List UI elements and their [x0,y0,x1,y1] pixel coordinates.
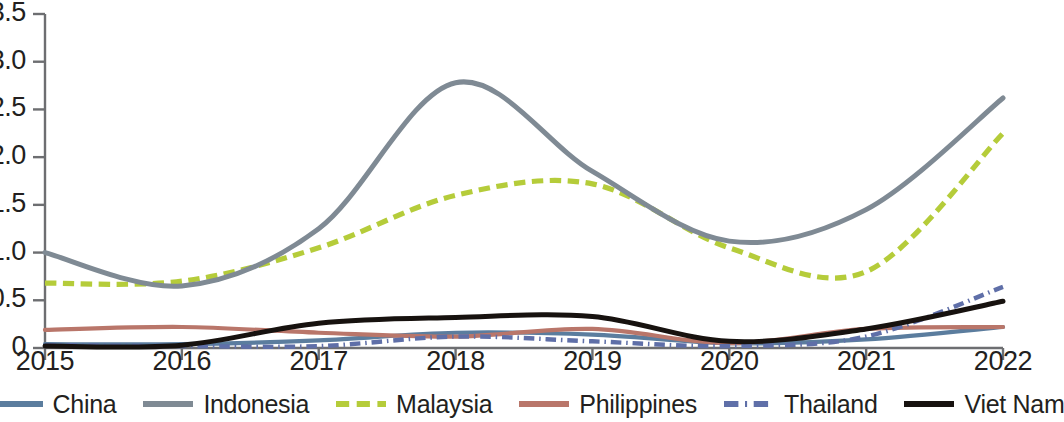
legend-item-thailand[interactable]: Thailand [723,390,878,419]
legend-label: Viet Nam [964,390,1064,419]
x-tick-label: 2019 [537,346,647,377]
chart-legend: ChinaIndonesiaMalaysiaPhilippinesThailan… [0,386,1056,422]
x-tick-label: 2022 [948,346,1058,377]
plot-area [0,0,1056,380]
y-tick-label: 3.0 [0,45,26,76]
y-tick-label: 2.5 [0,92,26,123]
legend-swatch-philippines-icon [518,396,570,412]
x-tick-label: 2015 [0,346,100,377]
data-series-group [45,82,1003,347]
legend-item-malaysia[interactable]: Malaysia [335,390,492,419]
y-tick-marks [33,14,45,348]
y-tick-label: 1.5 [0,188,26,219]
legend-label: Philippines [579,390,697,419]
legend-label: Indonesia [203,390,309,419]
legend-swatch-indonesia-icon [142,396,194,412]
legend-label: Malaysia [396,390,492,419]
legend-item-philippines[interactable]: Philippines [518,390,697,419]
legend-swatch-malaysia-icon [335,396,387,412]
x-tick-label: 2016 [127,346,237,377]
x-tick-label: 2017 [264,346,374,377]
legend-swatch-viet-nam-icon [903,396,955,412]
y-tick-label: 1.0 [0,236,26,267]
axis-lines [33,14,1003,360]
legend-label: China [53,390,117,419]
y-tick-label: 0.5 [0,283,26,314]
legend-swatch-china-icon [0,396,44,412]
x-tick-label: 2020 [674,346,784,377]
legend-label: Thailand [784,390,878,419]
legend-item-china[interactable]: China [0,390,116,419]
x-tick-label: 2021 [811,346,921,377]
legend-item-indonesia[interactable]: Indonesia [142,390,309,419]
legend-item-viet-nam[interactable]: Viet Nam [903,390,1064,419]
legend-swatch-thailand-icon [723,396,775,412]
x-tick-label: 2018 [401,346,511,377]
series-line-malaysia [45,133,1003,284]
y-tick-label: 2.0 [0,140,26,171]
y-tick-label: 3.5 [0,0,26,28]
